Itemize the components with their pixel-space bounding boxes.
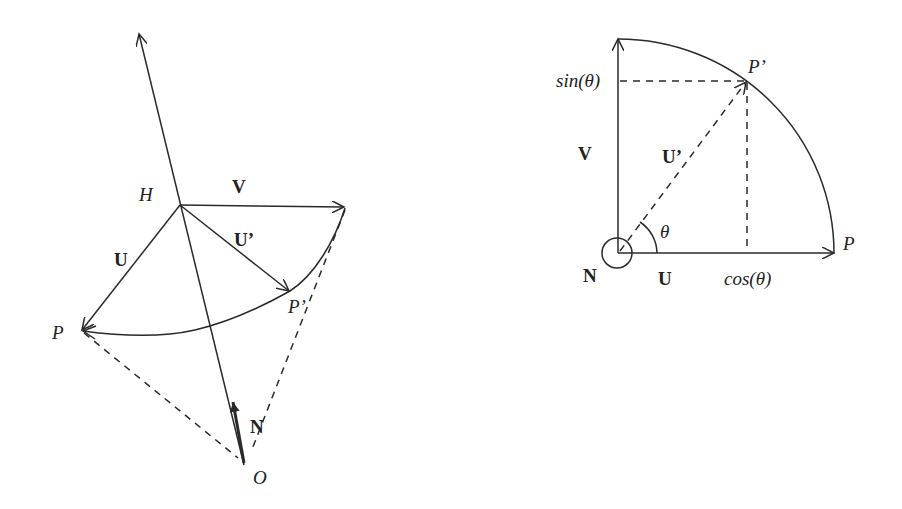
right-diagram: sin(θ) P’ V U’ θ P N U cos(θ) — [556, 39, 855, 290]
h-axis-arrow — [139, 34, 244, 465]
unit-arc — [618, 39, 834, 253]
label-theta: θ — [660, 221, 669, 242]
label-v: V — [578, 143, 592, 164]
label-u-prime: U’ — [234, 229, 254, 250]
v-vector-arrow — [180, 205, 344, 207]
label-p: P — [51, 322, 64, 343]
label-n: N — [583, 265, 597, 286]
label-p-prime: P’ — [747, 56, 766, 77]
label-o: O — [253, 467, 267, 488]
u-vector-arrow — [82, 205, 180, 330]
n-normal-arrow — [233, 402, 244, 463]
rotation-diagram-canvas: H V U U’ P P’ N O sin(θ) P’ V U’ θ P N U… — [0, 0, 902, 509]
label-u-prime: U’ — [662, 146, 682, 167]
label-cos-theta: cos(θ) — [724, 268, 771, 290]
label-sin-theta: sin(θ) — [556, 70, 600, 92]
label-u: U — [114, 249, 128, 270]
label-u: U — [658, 268, 672, 289]
label-p-prime: P’ — [287, 296, 306, 317]
label-n: N — [250, 416, 264, 437]
label-v: V — [232, 176, 246, 197]
u-prime-dashed-arrow — [620, 82, 746, 251]
label-p: P — [842, 233, 855, 254]
dashed-p-to-o — [84, 333, 238, 458]
theta-arc — [640, 222, 657, 253]
label-h: H — [138, 184, 154, 205]
dashed-v-to-o — [251, 210, 345, 452]
left-diagram: H V U U’ P P’ N O — [51, 34, 345, 488]
